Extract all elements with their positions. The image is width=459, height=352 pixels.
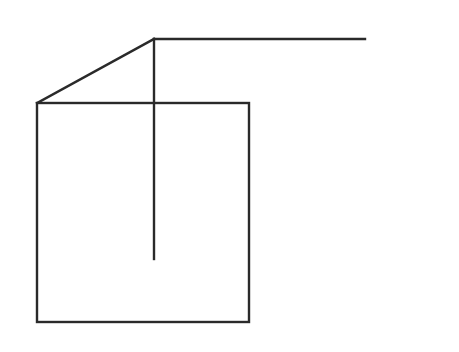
- background: [0, 0, 459, 352]
- geometric-line-diagram: [0, 0, 459, 352]
